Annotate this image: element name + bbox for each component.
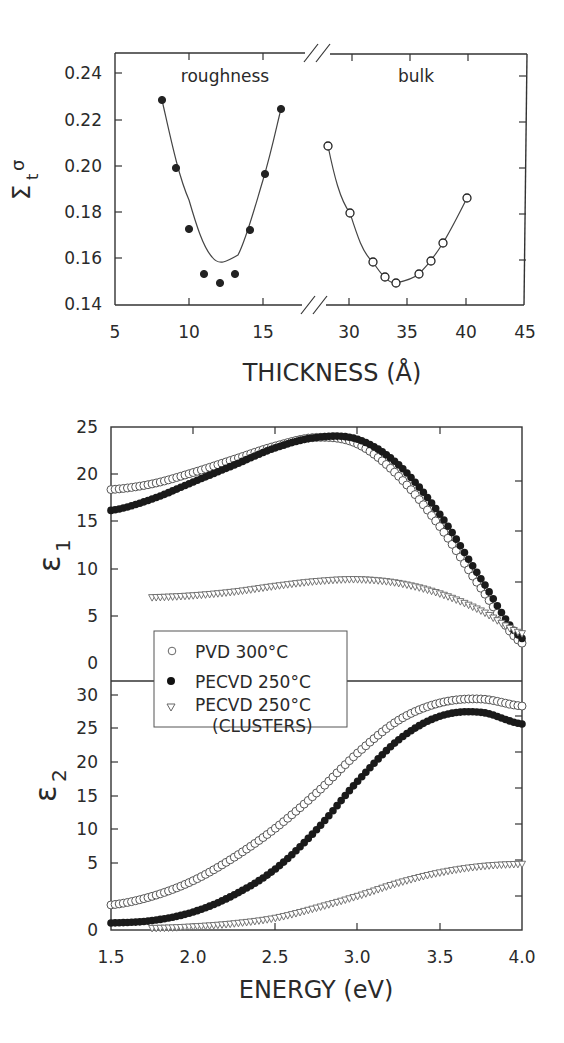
ytick-label: 0.18 <box>64 202 102 222</box>
top-y-ticks <box>115 53 526 305</box>
ytick-label: 25 <box>76 718 98 738</box>
legend-label-clusters-line2: (CLUSTERS) <box>212 716 313 736</box>
ytick-label: 15 <box>76 786 98 806</box>
ytick-label: 20 <box>76 752 98 772</box>
eps1-axis-label: ε 1 <box>32 539 75 572</box>
legend-label-pecvd: PECVD 250°C <box>195 672 311 692</box>
region-label-bulk: bulk <box>398 66 434 86</box>
bottom-panel: 25 20 15 10 5 0 30 25 20 15 10 5 0 1.5 2… <box>28 417 536 1004</box>
ytick-label: 20 <box>76 464 98 484</box>
top-x-tick-labels: 5 10 15 30 35 40 45 <box>110 322 536 342</box>
ylabel-sub: 1 <box>51 539 75 552</box>
ylabel-main: ε <box>32 556 67 572</box>
top-panel: 0.24 0.22 0.20 0.18 0.16 0.14 5 10 15 30… <box>7 44 536 387</box>
ytick-label: 0.16 <box>64 248 102 268</box>
roughness-series <box>158 96 284 286</box>
eps2-axis-label: ε 2 <box>28 769 71 802</box>
ytick-label: 0.24 <box>64 63 102 83</box>
xtick-label: 15 <box>252 322 274 342</box>
xtick-label: 5 <box>110 322 121 342</box>
ytick-label: 0.14 <box>64 294 102 314</box>
xtick-label: 1.5 <box>97 947 124 967</box>
top-y-axis-label: Σ t σ <box>7 160 42 200</box>
ytick-label: 15 <box>76 511 98 531</box>
region-label-roughness: roughness <box>181 66 269 86</box>
xtick-label: 4.0 <box>508 947 535 967</box>
ytick-label: 25 <box>76 417 98 437</box>
ytick-label: 0 <box>87 920 98 940</box>
xtick-label: 2.5 <box>261 947 288 967</box>
open-circle-icon <box>168 647 176 655</box>
ytick-label: 10 <box>76 559 98 579</box>
xtick-label: 30 <box>338 322 360 342</box>
eps1-clusters-series <box>149 577 526 638</box>
xtick-label: 3.0 <box>343 947 370 967</box>
top-plot-frame <box>115 53 527 305</box>
eps1-pecvd-series <box>107 432 526 642</box>
bottom-x-axis-label: ENERGY (eV) <box>239 976 394 1004</box>
ytick-label: 0.22 <box>64 110 102 130</box>
top-y-tick-labels: 0.24 0.22 0.20 0.18 0.16 0.14 <box>64 63 102 314</box>
xtick-label: 35 <box>396 322 418 342</box>
ytick-label: 5 <box>87 606 98 626</box>
ytick-label: 0 <box>87 653 98 673</box>
legend-label-pvd: PVD 300°C <box>195 642 288 662</box>
filled-circle-icon <box>167 677 175 685</box>
top-x-axis-label: THICKNESS (Å) <box>242 358 422 387</box>
ytick-label: 0.20 <box>64 156 102 176</box>
ytick-label: 30 <box>76 685 98 705</box>
ylabel-main: Σ <box>8 185 36 200</box>
eps1-pvd-series <box>107 433 526 647</box>
ylabel-main: ε <box>28 786 63 802</box>
ylabel-sup: σ <box>7 160 28 171</box>
eps2-y-tick-labels: 30 25 20 15 10 5 0 <box>76 685 98 940</box>
eps1-y-tick-labels: 25 20 15 10 5 0 <box>76 417 98 673</box>
xtick-label: 10 <box>178 322 200 342</box>
bulk-series <box>324 142 471 287</box>
legend: PVD 300°C PECVD 250°C PECVD 250°C (CLUST… <box>154 631 347 736</box>
xtick-label: 45 <box>514 322 536 342</box>
ytick-label: 10 <box>76 819 98 839</box>
xtick-label: 2.0 <box>179 947 206 967</box>
xtick-label: 40 <box>455 322 477 342</box>
ylabel-sub: t <box>23 174 42 180</box>
xtick-label: 3.5 <box>426 947 453 967</box>
ylabel-sub: 2 <box>47 769 71 782</box>
figure: 0.24 0.22 0.20 0.18 0.16 0.14 5 10 15 30… <box>0 0 564 1043</box>
ytick-label: 5 <box>87 853 98 873</box>
legend-label-clusters: PECVD 250°C <box>195 695 311 715</box>
bottom-x-tick-labels: 1.5 2.0 2.5 3.0 3.5 4.0 <box>97 947 535 967</box>
axis-break-icon <box>301 44 330 314</box>
